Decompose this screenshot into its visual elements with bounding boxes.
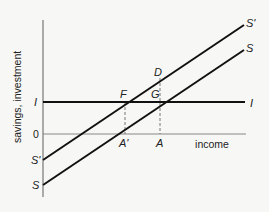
a-prime-label: A' <box>118 137 129 149</box>
savings-right-label: S <box>246 42 254 54</box>
investment-left-label: I <box>34 96 37 108</box>
point-g-label: G <box>151 88 160 100</box>
savings-investment-diagram: savings, investment income 0 I S' S I S'… <box>0 0 269 212</box>
x-axis-label: income <box>195 138 229 150</box>
y-axis-label: savings, investment <box>11 51 23 143</box>
savings-left-label: S <box>32 179 40 191</box>
point-f-label: F <box>120 88 128 100</box>
point-d-label: D <box>154 66 162 78</box>
a-label: A <box>155 137 163 149</box>
savings-prime-left-label: S' <box>31 154 41 166</box>
savings-line <box>43 50 244 185</box>
investment-right-label: I <box>250 97 253 109</box>
savings-prime-right-label: S' <box>246 17 256 29</box>
origin-label: 0 <box>33 128 39 140</box>
